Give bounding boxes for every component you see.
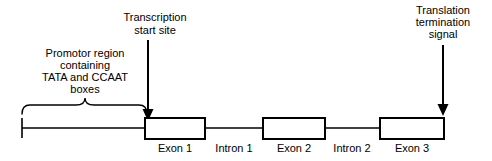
exon-boxes (145, 118, 444, 139)
translation-arrow-head-icon (438, 104, 449, 116)
translation-termination-annotation: Translation termination signal (416, 4, 470, 116)
feature-label-exon-1: Exon 1 (158, 142, 192, 154)
transcription-label-line1: Transcription (123, 11, 186, 23)
gene-backbone (22, 118, 145, 138)
feature-label-intron-1: Intron 1 (215, 142, 252, 154)
translation-label-line3: signal (429, 28, 458, 40)
gene-diagram-canvas: Transcription start site Translation ter… (0, 0, 492, 161)
promotor-label-line1: Promotor region (46, 47, 125, 59)
translation-label-line1: Translation (416, 4, 470, 16)
transcription-label-line2: start site (134, 24, 176, 36)
exon-2-box (263, 118, 325, 139)
exon-1-box (145, 118, 205, 139)
translation-label-line2: termination (416, 16, 470, 28)
promotor-brace-icon (22, 98, 147, 114)
feature-label-intron-2: Intron 2 (333, 142, 370, 154)
gene-structure-diagram: Transcription start site Translation ter… (0, 0, 492, 161)
promotor-region-annotation: Promotor region containing TATA and CCAA… (22, 47, 147, 114)
promotor-label-line3: TATA and CCAAT (42, 71, 128, 83)
promotor-label-line4: boxes (70, 83, 100, 95)
promotor-label-line2: containing (60, 59, 110, 71)
feature-label-exon-2: Exon 2 (277, 142, 311, 154)
exon-3-box (380, 118, 444, 139)
feature-label-exon-3: Exon 3 (395, 142, 429, 154)
feature-labels: Exon 1 Intron 1 Exon 2 Intron 2 Exon 3 (158, 142, 429, 154)
